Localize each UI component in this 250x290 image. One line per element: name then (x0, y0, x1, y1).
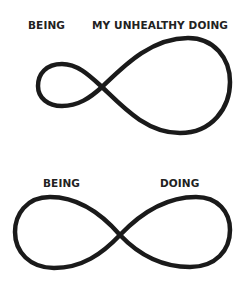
infinity-diagrams (0, 0, 250, 290)
lopsided-infinity-loop (38, 38, 230, 133)
balanced-infinity-loop (15, 197, 230, 268)
